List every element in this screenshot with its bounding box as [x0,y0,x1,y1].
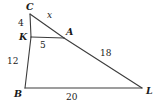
segment-a-l [64,38,142,88]
segment-c-k [30,14,31,37]
segment-k-b [25,37,31,88]
measure-label-kb: 12 [7,57,18,66]
measure-label-bl: 20 [66,93,77,102]
figure-canvas [0,0,159,110]
segment-k-a [31,37,64,38]
measure-label-ca: x [47,11,52,20]
geometry-figure: C K A B L 4 x 5 18 12 20 [0,0,159,110]
measure-label-ck: 4 [18,19,24,28]
vertex-label-c: C [26,2,34,12]
vertex-label-l: L [146,86,153,96]
vertex-label-b: B [14,89,22,99]
measure-label-al: 18 [100,49,111,58]
measure-label-ka: 5 [40,41,46,50]
vertex-label-a: A [66,27,73,37]
vertex-label-k: K [19,32,27,42]
